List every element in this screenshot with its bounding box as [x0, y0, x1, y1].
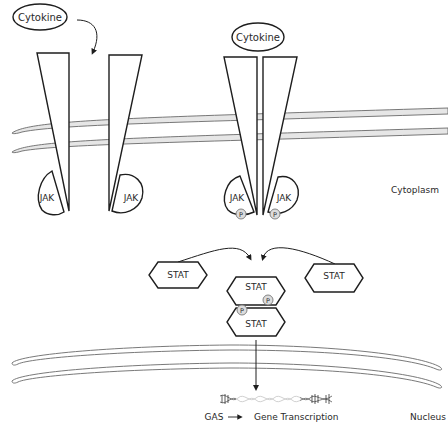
dna-helix-icon [220, 392, 332, 406]
cytokine-label: Cytokine [236, 32, 280, 43]
plasma-membrane [12, 108, 448, 153]
stat-left: STAT [149, 262, 207, 288]
stat-right: STAT [305, 264, 363, 292]
cytoplasm-label: Cytoplasm [391, 185, 439, 195]
svg-text:STAT: STAT [323, 271, 345, 281]
svg-text:JAK: JAK [39, 193, 56, 203]
svg-text:JAK: JAK [276, 193, 293, 203]
jak-right-inactive: JAK [112, 174, 143, 212]
receptor-inactive: JAK JAK [37, 53, 143, 215]
nucleus-label: Nucleus [410, 412, 446, 422]
cytokine-label: Cytokine [18, 12, 62, 23]
jak-left-inactive: JAK [38, 171, 64, 215]
svg-text:P: P [239, 211, 243, 219]
svg-text:JAK: JAK [229, 193, 246, 203]
gene-transcription-label: Gene Transcription [254, 412, 339, 422]
stat-dimer: STAT P STAT P [227, 277, 285, 336]
nuclear-membrane [12, 345, 442, 388]
svg-text:P: P [273, 211, 277, 219]
cytokine-unbound: Cytokine [13, 4, 97, 52]
gas-label: GAS [205, 412, 224, 422]
svg-text:STAT: STAT [245, 282, 267, 292]
svg-text:P: P [240, 307, 244, 315]
jak-stat-diagram: Cytokine JAK JAK Cytokine JAK P [0, 0, 448, 427]
svg-text:P: P [266, 297, 270, 305]
svg-text:JAK: JAK [123, 193, 140, 203]
binding-arrow [77, 20, 97, 52]
jak-right-active: JAK P [268, 177, 298, 219]
stat-recruit-arrow-left [178, 248, 250, 262]
svg-text:STAT: STAT [245, 319, 267, 329]
stat-recruit-arrow-right [263, 248, 335, 264]
cytokine-bound: Cytokine [232, 23, 284, 51]
svg-text:STAT: STAT [167, 270, 189, 280]
